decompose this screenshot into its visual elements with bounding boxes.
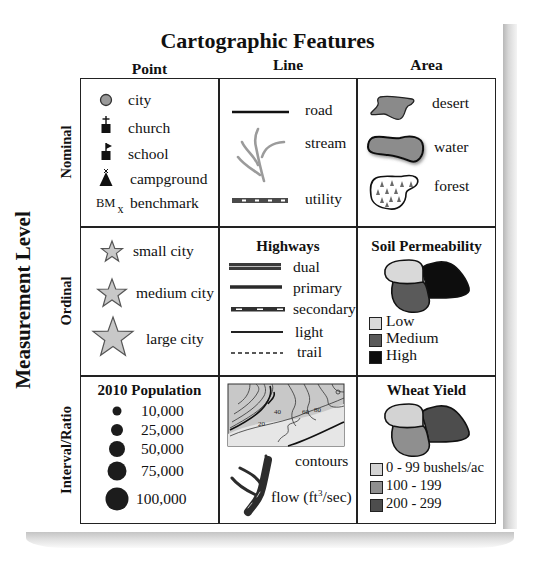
legend-label: 100,000 [136, 490, 186, 508]
legend-label: city [128, 91, 151, 109]
population-title: 2010 Population [80, 382, 219, 399]
legend-label: 100 - 199 [386, 477, 442, 494]
legend-label: 200 - 299 [386, 495, 442, 512]
legend-label: primary [293, 279, 342, 297]
legend-swatch-200-299 [370, 499, 383, 512]
school-icon [98, 143, 118, 167]
legend-label: small city [133, 242, 194, 260]
proportional-circles-icon [104, 400, 134, 540]
benchmark-icon: BMx [96, 196, 123, 211]
legend-label: flow (ft3/sec) [271, 488, 352, 506]
legend-label: secondary [293, 300, 356, 318]
water-area-icon [366, 134, 428, 170]
legend-label: forest [434, 177, 469, 195]
primary-highway-icon [230, 284, 286, 292]
legend-swatch-high [369, 351, 382, 364]
legend-label: school [128, 145, 168, 163]
column-header-line: Line [219, 56, 357, 74]
legend-swatch-low [369, 317, 382, 330]
legend-label: 0 - 99 bushels/ac [386, 459, 484, 476]
legend-label: contours [295, 452, 348, 470]
legend-label: 10,000 [141, 402, 184, 420]
legend-label: road [305, 101, 333, 119]
page-shadow-bottom [26, 532, 514, 548]
legend-label: 75,000 [141, 462, 184, 480]
svg-text:40: 40 [274, 408, 282, 416]
divider [356, 78, 358, 524]
road-line-icon [232, 109, 292, 115]
trail-icon [231, 351, 287, 357]
column-header-area: Area [357, 56, 496, 74]
desert-area-icon [368, 94, 423, 124]
legend-label: desert [432, 94, 469, 112]
legend-label: water [434, 138, 468, 156]
stream-line-icon [232, 127, 292, 182]
legend-label: stream [305, 134, 346, 152]
star-large-icon [91, 316, 135, 360]
divider [218, 78, 220, 524]
forest-area-icon [368, 174, 428, 214]
legend-label: Low [386, 312, 414, 330]
star-small-icon [100, 240, 124, 264]
flow-stream-icon [228, 456, 288, 516]
legend-swatch-100-199 [370, 481, 383, 494]
svg-text:60: 60 [302, 408, 310, 416]
legend-label: church [128, 119, 170, 137]
church-icon [98, 116, 118, 140]
legend-swatch-medium [369, 334, 382, 347]
legend-label: 25,000 [141, 421, 184, 439]
svg-text:80: 80 [314, 406, 322, 414]
soil-permeability-map-icon [383, 258, 473, 316]
legend-label: 50,000 [141, 440, 184, 458]
city-circle-icon [98, 92, 118, 112]
dual-highway-icon [229, 262, 285, 272]
column-header-point: Point [80, 60, 219, 78]
divider [80, 226, 496, 228]
legend-label: medium city [136, 284, 214, 302]
light-highway-icon [231, 330, 287, 336]
highways-title: Highways [219, 238, 357, 255]
legend-label: utility [305, 190, 342, 208]
campground-icon [98, 169, 118, 191]
wheat-yield-title: Wheat Yield [357, 382, 496, 399]
star-medium-icon [96, 278, 128, 310]
diagram-title: Cartographic Features [0, 29, 535, 53]
soil-permeability-title: Soil Permeability [357, 238, 496, 255]
legend-label: Medium [386, 329, 439, 347]
utility-line-icon [232, 197, 292, 205]
legend-label: campground [130, 170, 207, 188]
page-shadow-right [503, 24, 517, 529]
legend-label: trail [297, 343, 322, 361]
legend-label: High [386, 346, 417, 364]
legend-label: dual [293, 258, 320, 276]
divider [80, 375, 496, 377]
legend-label: large city [146, 330, 204, 348]
legend-label: benchmark [130, 194, 199, 212]
legend-swatch-0-99 [370, 463, 383, 476]
svg-text:20: 20 [258, 420, 266, 428]
legend-label: light [295, 323, 323, 341]
secondary-highway-icon [231, 306, 289, 314]
wheat-yield-map-icon [383, 402, 473, 460]
contour-map-icon: 20 40 60 80 [228, 384, 346, 452]
